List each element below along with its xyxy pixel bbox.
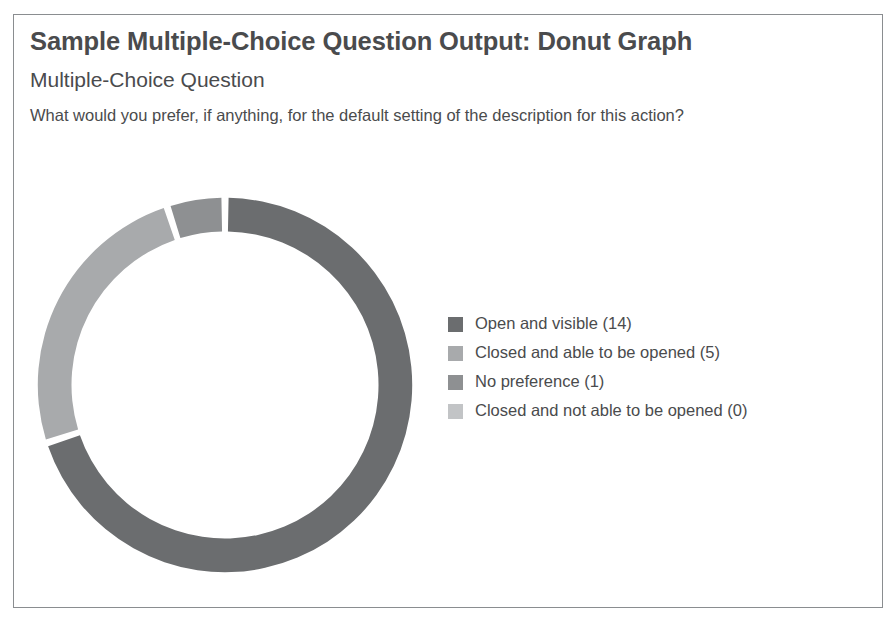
legend-item-label: Closed and not able to be opened (0) <box>475 401 747 421</box>
question-text: What would you prefer, if anything, for … <box>30 103 710 127</box>
donut-slice[interactable] <box>171 198 222 238</box>
legend-item[interactable]: Closed and not able to be opened (0) <box>448 398 868 424</box>
donut-chart <box>14 175 434 595</box>
legend-color-swatch-icon <box>448 404 463 419</box>
donut-slice[interactable] <box>38 208 175 439</box>
legend-item[interactable]: Closed and able to be opened (5) <box>448 340 868 366</box>
card-inner: Sample Multiple-Choice Question Output: … <box>14 15 882 607</box>
legend-color-swatch-icon <box>448 317 463 332</box>
legend-item-label: No preference (1) <box>475 372 604 392</box>
legend-item[interactable]: Open and visible (14) <box>448 311 868 337</box>
legend-item-label: Closed and able to be opened (5) <box>475 343 720 363</box>
donut-chart-svg <box>32 187 418 583</box>
question-type-label: Multiple-Choice Question <box>30 67 860 92</box>
legend-item[interactable]: No preference (1) <box>448 369 868 395</box>
page-title: Sample Multiple-Choice Question Output: … <box>30 27 860 56</box>
chart-legend: Open and visible (14)Closed and able to … <box>448 311 868 427</box>
donut-slices <box>38 198 412 572</box>
legend-color-swatch-icon <box>448 346 463 361</box>
legend-color-swatch-icon <box>448 375 463 390</box>
donut-graph-card: Sample Multiple-Choice Question Output: … <box>13 14 883 608</box>
legend-item-label: Open and visible (14) <box>475 314 632 334</box>
